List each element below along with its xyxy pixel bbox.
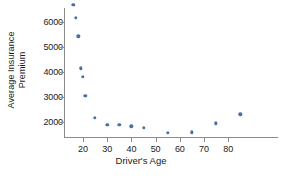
data-point [84,94,87,97]
x-axis-tick [83,138,84,142]
data-point [81,75,84,78]
data-point [118,123,121,126]
data-point [190,131,193,134]
y-axis-tick [60,72,64,73]
y-axis-tick [60,122,64,123]
data-point [239,113,242,116]
data-point [130,125,133,128]
scatter-chart: Average Insurance Premium 20003000400050… [0,0,282,178]
data-point [72,3,75,6]
data-point [105,123,108,126]
x-axis-title: Driver's Age [0,155,282,166]
x-axis-line [64,137,278,138]
y-axis-tick [60,47,64,48]
y-axis-line [64,8,65,137]
x-axis-tick [204,138,205,142]
x-axis-tick [131,138,132,142]
x-axis-tick [156,138,157,142]
data-point [214,122,217,125]
data-point [79,67,82,70]
x-axis-tick [107,138,108,142]
data-point [93,116,96,119]
data-point [76,35,79,38]
data-point [166,131,169,134]
plot-area [0,0,282,178]
data-point [142,126,145,129]
y-axis-tick [60,22,64,23]
data-point [74,16,77,19]
x-axis-tick [228,138,229,142]
x-axis-tick [180,138,181,142]
y-axis-tick [60,97,64,98]
